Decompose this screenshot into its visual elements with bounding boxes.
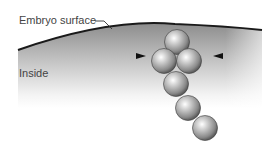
inside-label: Inside — [19, 67, 48, 79]
cell-sphere — [164, 72, 189, 97]
cell-sphere — [152, 49, 177, 74]
cell-sphere — [193, 116, 218, 141]
cell-sphere — [177, 49, 202, 74]
embryo-surface-label: Embryo surface — [19, 14, 96, 26]
cell-sphere — [176, 96, 201, 121]
